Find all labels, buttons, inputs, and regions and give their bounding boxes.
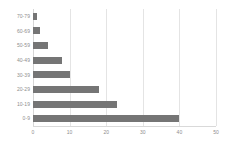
y-axis-label-60-69: 60-69 — [1, 24, 30, 39]
x-axis-tick-50: 50 — [213, 128, 219, 137]
bar-0-9 — [33, 115, 179, 122]
y-axis-label-40-49: 40-49 — [1, 53, 30, 68]
bar-10-19 — [33, 101, 117, 108]
bar-20-29 — [33, 86, 99, 93]
bar-row — [33, 97, 216, 112]
x-axis-tick-0: 0 — [32, 128, 35, 137]
bar-chart: 70-7960-6950-5940-4930-3920-2910-190-9 0… — [0, 0, 229, 144]
y-axis-label-20-29: 20-29 — [1, 82, 30, 97]
y-axis-label-70-79: 70-79 — [1, 9, 30, 24]
y-axis-label-50-59: 50-59 — [1, 38, 30, 53]
bar-row — [33, 68, 216, 83]
bar-row — [33, 38, 216, 53]
x-axis-tick-20: 20 — [103, 128, 109, 137]
x-axis-tick-40: 40 — [177, 128, 183, 137]
bar-30-39 — [33, 71, 70, 78]
bar-row — [33, 9, 216, 24]
bar-70-79 — [33, 13, 37, 20]
x-axis-tick-30: 30 — [140, 128, 146, 137]
x-axis-tick-labels: 01020304050 — [33, 128, 216, 140]
bar-row — [33, 53, 216, 68]
y-axis-category-labels: 70-7960-6950-5940-4930-3920-2910-190-9 — [0, 9, 30, 126]
bar-40-49 — [33, 57, 62, 64]
bar-50-59 — [33, 42, 48, 49]
bar-60-69 — [33, 27, 40, 34]
x-axis-tick-10: 10 — [67, 128, 73, 137]
y-axis-label-30-39: 30-39 — [1, 68, 30, 83]
bar-row — [33, 24, 216, 39]
x-axis-line — [33, 126, 216, 127]
y-axis-label-0-9: 0-9 — [1, 111, 30, 126]
bar-row — [33, 111, 216, 126]
bar-row — [33, 82, 216, 97]
gridline-50 — [216, 9, 217, 126]
plot-area — [33, 9, 216, 126]
y-axis-label-10-19: 10-19 — [1, 97, 30, 112]
